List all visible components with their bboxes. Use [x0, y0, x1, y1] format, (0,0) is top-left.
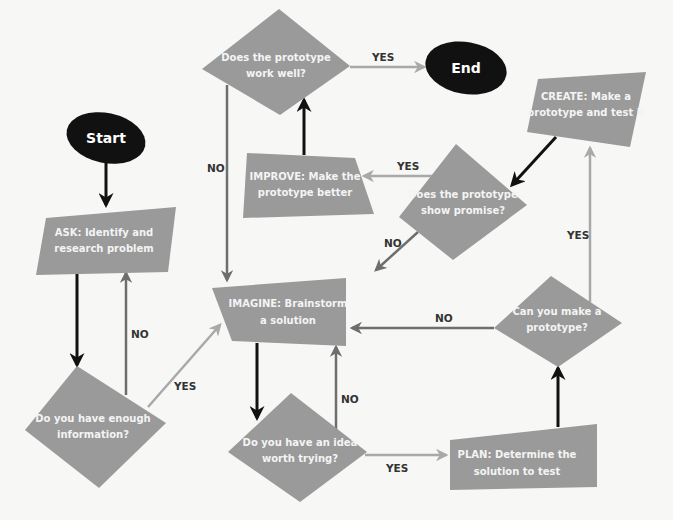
create-text-line2: prototype and test it	[527, 107, 645, 118]
can-make-text-line1: Can you make a	[512, 306, 601, 317]
node-improve: IMPROVE: Make the prototype better	[243, 153, 374, 218]
node-imagine: IMAGINE: Brainstorm a solution	[212, 278, 347, 346]
idea-worth-text-line2: worth trying?	[262, 453, 338, 464]
arrow-enough-info-yes-to-imagine	[148, 325, 220, 407]
label-enough-info-no: NO	[131, 328, 149, 340]
create-text-line1: CREATE: Make a	[541, 91, 631, 102]
plan-text-line2: solution to test	[474, 466, 561, 477]
works-well-text-line1: Does the prototype	[221, 52, 331, 63]
ask-text-line2: research problem	[54, 243, 153, 254]
node-enough-info: Do you have enough information?	[25, 366, 166, 488]
can-make-text-line2: prototype?	[526, 322, 588, 333]
works-well-text-line2: work well?	[246, 68, 306, 79]
label-can-make-yes: YES	[566, 229, 589, 241]
idea-worth-text-line1: Do you have an idea	[243, 437, 358, 448]
label-show-promise-yes: YES	[396, 160, 419, 172]
enough-info-text-line2: information?	[57, 429, 129, 440]
imagine-shape	[212, 278, 346, 346]
label-show-promise-no: NO	[384, 237, 402, 249]
node-idea-worth: Do you have an idea worth trying?	[228, 393, 367, 502]
imagine-text-line2: a solution	[260, 315, 316, 326]
node-can-make: Can you make a prototype?	[494, 276, 622, 367]
label-idea-worth-yes: YES	[385, 462, 408, 474]
label-can-make-no: NO	[435, 312, 453, 324]
node-plan: PLAN: Determine the solution to test	[450, 424, 597, 490]
flowchart-canvas: NO YES NO YES NO YES NO YES NO YES Start…	[0, 0, 673, 520]
imagine-text-line1: IMAGINE: Brainstorm	[229, 298, 348, 309]
label-enough-info-yes: YES	[173, 380, 196, 392]
arrow-create-to-show-promise	[512, 137, 556, 185]
plan-text-line1: PLAN: Determine the	[458, 449, 577, 460]
show-promise-text-line2: show promise?	[421, 205, 505, 216]
node-ask: ASK: Identify and research problem	[36, 207, 176, 275]
improve-text-line1: IMPROVE: Make the	[249, 171, 360, 182]
show-promise-text-line1: Does the prototype	[408, 189, 518, 200]
improve-shape	[243, 153, 374, 218]
label-idea-worth-no: NO	[341, 393, 359, 405]
start-label: Start	[86, 130, 126, 146]
ask-text-line1: ASK: Identify and	[55, 227, 154, 238]
end-label: End	[451, 60, 481, 76]
node-works-well: Does the prototype work well?	[202, 9, 350, 115]
label-works-well-no: NO	[207, 162, 225, 174]
improve-text-line2: prototype better	[258, 187, 353, 198]
node-end: End	[421, 35, 511, 100]
enough-info-text-line1: Do you have enough	[35, 413, 150, 424]
enough-info-shape	[25, 366, 166, 488]
ask-shape	[36, 207, 176, 275]
node-create: CREATE: Make a prototype and test it	[527, 72, 646, 147]
label-works-well-yes: YES	[371, 51, 394, 63]
node-start: Start	[62, 105, 151, 171]
edge-labels: NO YES NO YES NO YES NO YES NO YES	[131, 51, 589, 474]
